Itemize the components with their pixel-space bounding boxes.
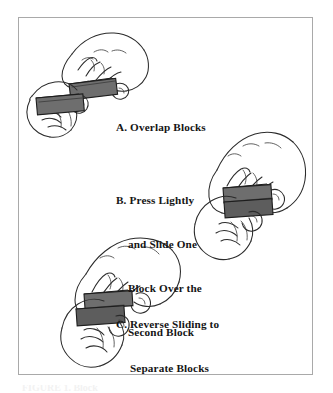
- caption-c-line-1: C. Reverse Sliding to: [116, 317, 219, 332]
- block-lower-a: [36, 94, 84, 115]
- caption-c-line-2: Separate Blocks: [116, 361, 219, 376]
- bottom-cropped-caption: FIGURE 1. Block: [22, 385, 182, 393]
- caption-b-line-1: B. Press Lightly: [116, 193, 202, 208]
- caption-a: A. Overlap Blocks: [116, 91, 206, 164]
- caption-b-line-2: and Slide One: [116, 237, 202, 252]
- blocks-stacked-b: [223, 184, 273, 218]
- figure-root: A. Overlap Blocks B. Press Lightly and S…: [0, 0, 333, 393]
- caption-a-line-1: A. Overlap Blocks: [116, 120, 206, 135]
- bottom-cropped-caption-text: FIGURE 1. Block: [22, 385, 182, 393]
- caption-c: C. Reverse Sliding to Separate Blocks: [116, 288, 219, 393]
